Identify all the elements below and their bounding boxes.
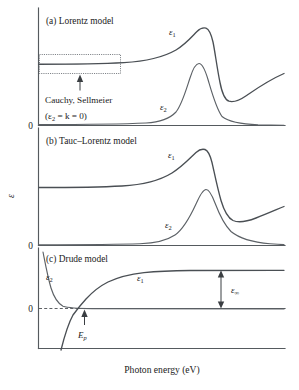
panel-a-eps2-subscript: 2 xyxy=(164,106,167,113)
svg-text:ε1: ε1 xyxy=(169,27,176,38)
panel-b-eps1-curve xyxy=(39,149,284,222)
panel-b-eps2-subscript: 2 xyxy=(169,224,172,231)
panel-b-title: (b) Tauc–Lorentz model xyxy=(46,136,137,147)
panel-a-eps2-label: ε2 xyxy=(160,102,167,113)
panel-b-eps2-curve xyxy=(39,190,284,245)
panel-c-zero-tick: 0 xyxy=(28,304,33,314)
panel-a-title: (a) Lorentz model xyxy=(46,16,114,27)
panel-a-lorentz: 0 (a) Lorentz model ε1 ε2 xyxy=(28,8,285,131)
panel-a-eps1-subscript: 1 xyxy=(173,31,176,38)
cauchy-sellmeier-arrow xyxy=(77,75,83,91)
plasma-energy-label: Ep xyxy=(77,330,87,341)
plasma-energy-subscript: p xyxy=(83,334,87,341)
cauchy-sellmeier-note: Cauchy, Sellmeier xyxy=(45,95,112,105)
plasma-energy-arrow xyxy=(81,310,87,326)
panel-b-eps2-label: ε2 xyxy=(165,220,172,231)
panel-a-eps1-label: ε1 xyxy=(169,27,176,38)
eps2-k-zero-rest: = k = 0) xyxy=(55,111,87,121)
panel-c-eps2-label: ε2 xyxy=(46,272,53,283)
eps-infinity-arrow xyxy=(218,270,224,308)
svg-text:ε1: ε1 xyxy=(168,150,175,161)
panel-a-eps1-curve xyxy=(39,28,284,102)
eps-infinity-subscript: ∞ xyxy=(235,289,240,296)
panel-c-eps1-subscript: 1 xyxy=(141,277,144,284)
panel-c-eps1-label: ε1 xyxy=(137,273,144,284)
panel-b-zero-tick: 0 xyxy=(28,241,33,251)
panel-b-eps1-subscript: 1 xyxy=(172,154,175,161)
panel-c-drude: 0 (c) Drude model ε2 ε1 xyxy=(28,248,285,350)
svg-text:ε2: ε2 xyxy=(160,102,167,113)
panel-c-eps2-subscript: 2 xyxy=(50,276,53,283)
panel-a-zero-tick: 0 xyxy=(28,121,33,131)
eps-infinity-label: ε∞ xyxy=(231,285,240,296)
svg-text:ε2: ε2 xyxy=(165,220,172,231)
svg-text:ε2: ε2 xyxy=(46,272,53,283)
svg-text:ε1: ε1 xyxy=(137,273,144,284)
panel-b-tauc-lorentz: 0 (b) Tauc–Lorentz model ε1 ε2 xyxy=(28,128,285,251)
panel-c-eps1-curve xyxy=(61,270,284,350)
x-axis-label: Photon energy (eV) xyxy=(124,364,200,376)
eps2-k-zero-note: (ε2 = k = 0) xyxy=(45,111,87,122)
dielectric-models-figure: ε 0 (a) Lorentz model ε1 xyxy=(0,0,299,390)
panel-c-title: (c) Drude model xyxy=(46,254,108,265)
y-axis-label: ε xyxy=(5,194,16,198)
panel-b-eps1-label: ε1 xyxy=(168,150,175,161)
